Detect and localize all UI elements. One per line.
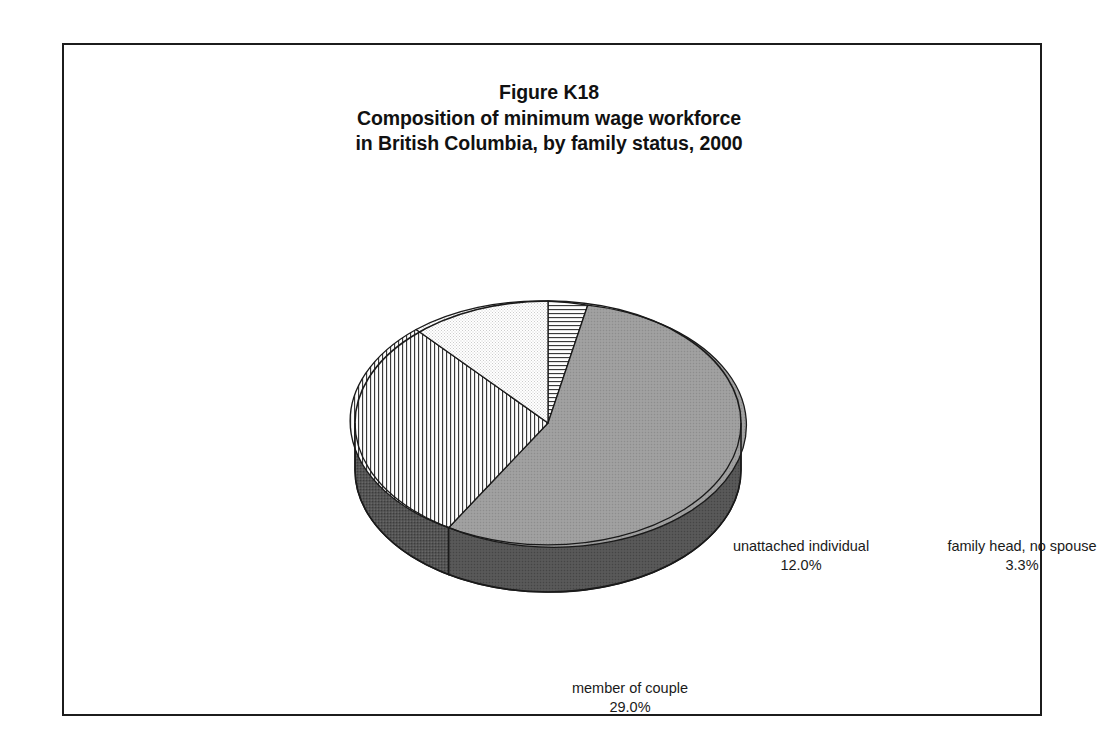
title-line-2: Composition of minimum wage workforce xyxy=(0,106,1098,132)
slice-label-name: family head, no spouse xyxy=(918,537,1098,556)
slice-label-name: unattached individual xyxy=(708,537,894,556)
slice-label-unattached-individual: unattached individual 12.0% xyxy=(708,537,894,574)
slice-label-value: 29.0% xyxy=(548,698,712,717)
pie-chart: unattached individual 12.0% family head,… xyxy=(330,285,770,605)
pie-chart-svg xyxy=(330,285,770,605)
page-title: Figure K18 Composition of minimum wage w… xyxy=(0,80,1098,157)
title-line-3: in British Columbia, by family status, 2… xyxy=(0,131,1098,157)
title-line-1: Figure K18 xyxy=(0,80,1098,106)
slice-label-value: 3.3% xyxy=(918,556,1098,575)
figure-root: Figure K18 Composition of minimum wage w… xyxy=(0,0,1098,754)
slice-label-family-head-no-spouse: family head, no spouse 3.3% xyxy=(918,537,1098,574)
slice-label-value: 12.0% xyxy=(708,556,894,575)
slice-label-member-of-couple: member of couple 29.0% xyxy=(548,679,712,716)
slice-label-name: member of couple xyxy=(548,679,712,698)
